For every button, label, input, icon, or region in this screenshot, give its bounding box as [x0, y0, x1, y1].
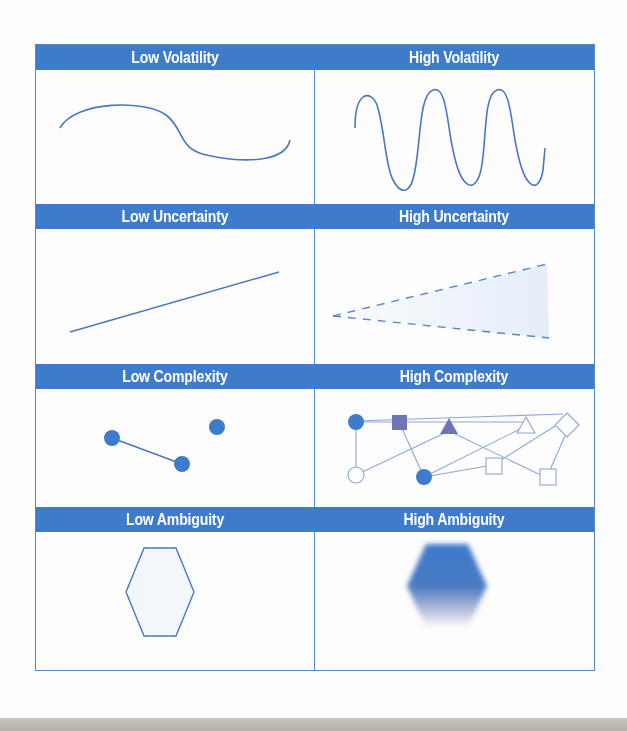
panel-low-uncertainty — [36, 229, 314, 364]
gentle-s-curve-icon — [36, 70, 314, 204]
panel-low-ambiguity — [36, 532, 314, 670]
title-low-volatility: Low Volatility — [53, 45, 298, 70]
header-row-complexity: Low Complexity High Complexity — [36, 364, 594, 389]
dashed-cone-icon — [315, 229, 593, 364]
panel-high-volatility — [315, 70, 593, 204]
vuca-grid: Low Volatility High Volatility Low Uncer… — [35, 44, 595, 671]
page-edge-strip — [0, 718, 627, 731]
header-row-ambiguity: Low Ambiguity High Ambiguity — [36, 507, 594, 532]
panel-high-complexity — [315, 389, 593, 507]
header-row-uncertainty: Low Uncertainty High Uncertainty — [36, 204, 594, 229]
panel-high-ambiguity — [315, 532, 593, 670]
blurred-hexagon-icon — [315, 532, 593, 670]
title-low-complexity: Low Complexity — [53, 364, 298, 389]
title-high-ambiguity: High Ambiguity — [332, 507, 577, 532]
header-row-volatility: Low Volatility High Volatility — [36, 45, 594, 70]
title-high-uncertainty: High Uncertainty — [332, 204, 577, 229]
hexagon-icon — [36, 532, 314, 670]
straight-line-icon — [36, 229, 314, 364]
title-high-complexity: High Complexity — [332, 364, 577, 389]
title-low-uncertainty: Low Uncertainty — [53, 204, 298, 229]
sine-wave-icon — [315, 70, 593, 204]
title-low-ambiguity: Low Ambiguity — [53, 507, 298, 532]
simple-network-icon — [36, 389, 314, 507]
complex-network-icon — [315, 389, 593, 507]
panel-low-volatility — [36, 70, 314, 204]
title-high-volatility: High Volatility — [332, 45, 577, 70]
panel-low-complexity — [36, 389, 314, 507]
panel-high-uncertainty — [315, 229, 593, 364]
